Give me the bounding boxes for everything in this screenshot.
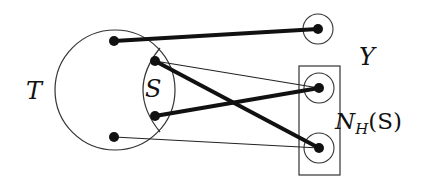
edge-s2-n1 [155, 88, 319, 116]
label-s: S [145, 75, 161, 103]
label-y: Y [359, 43, 377, 71]
label-n-arg: (S) [368, 108, 402, 134]
vertex-t2 [109, 132, 119, 142]
label-n-h-s: NH(S) [334, 108, 402, 138]
vertex-s1 [150, 56, 160, 66]
vertex-n2 [314, 143, 324, 153]
vertex-s2 [150, 111, 160, 121]
label-n-sub: H [354, 120, 369, 138]
vertex-n1 [314, 83, 324, 93]
label-t: T [26, 77, 44, 105]
edge-t1-y1 [114, 29, 318, 41]
vertex-t1 [109, 36, 119, 46]
label-n-main: N [334, 108, 356, 134]
vertex-y1 [313, 24, 323, 34]
bipartite-matching-diagram: T S Y NH(S) [0, 0, 434, 190]
